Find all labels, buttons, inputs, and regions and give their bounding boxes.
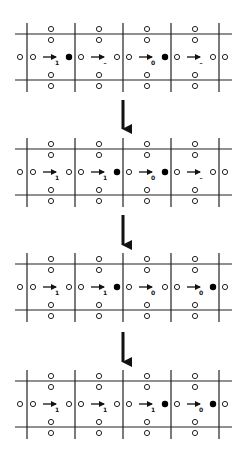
open-site-icon xyxy=(222,169,227,174)
open-site-icon xyxy=(96,141,101,146)
open-site-icon xyxy=(192,267,197,272)
open-site-icon xyxy=(48,198,53,203)
open-site-icon xyxy=(96,187,101,192)
open-site-icon xyxy=(114,401,119,406)
cell-label: 1 xyxy=(151,406,155,413)
open-site-icon xyxy=(48,152,53,157)
open-site-icon xyxy=(48,26,53,31)
open-site-icon xyxy=(192,141,197,146)
filled-site-icon xyxy=(162,401,168,407)
cell-label: 1 xyxy=(103,174,107,181)
open-site-icon xyxy=(126,401,131,406)
open-site-icon xyxy=(192,430,197,435)
open-site-icon xyxy=(126,54,131,59)
cell-label: 0 xyxy=(151,174,155,181)
open-site-icon xyxy=(96,313,101,318)
open-site-icon xyxy=(96,83,101,88)
open-site-icon xyxy=(66,169,71,174)
cell-label: 1 xyxy=(55,174,59,181)
open-site-icon xyxy=(48,302,53,307)
open-site-icon xyxy=(192,313,197,318)
open-site-icon xyxy=(144,26,149,31)
open-site-icon xyxy=(144,152,149,157)
open-site-icon xyxy=(144,302,149,307)
open-site-icon xyxy=(144,83,149,88)
open-site-icon xyxy=(144,267,149,272)
filled-site-icon xyxy=(162,54,168,60)
open-site-icon xyxy=(144,187,149,192)
open-site-icon xyxy=(192,384,197,389)
open-site-icon xyxy=(30,169,35,174)
open-site-icon xyxy=(78,54,83,59)
open-site-icon xyxy=(48,384,53,389)
open-site-icon xyxy=(78,401,83,406)
open-site-icon xyxy=(192,72,197,77)
cell-label: 1 xyxy=(55,59,59,66)
cell-label: 1 xyxy=(55,406,59,413)
open-site-icon xyxy=(48,187,53,192)
open-site-icon xyxy=(192,419,197,424)
open-site-icon xyxy=(96,198,101,203)
open-site-icon xyxy=(48,430,53,435)
open-site-icon xyxy=(96,256,101,261)
open-site-icon xyxy=(48,256,53,261)
open-site-icon xyxy=(96,419,101,424)
filled-site-icon xyxy=(210,284,216,290)
open-site-icon xyxy=(48,373,53,378)
open-site-icon xyxy=(144,373,149,378)
open-site-icon xyxy=(144,419,149,424)
open-site-icon xyxy=(96,72,101,77)
open-site-icon xyxy=(48,83,53,88)
filled-site-icon xyxy=(210,401,216,407)
open-site-icon xyxy=(30,284,35,289)
open-site-icon xyxy=(126,169,131,174)
open-site-icon xyxy=(17,54,22,59)
open-site-icon xyxy=(96,267,101,272)
open-site-icon xyxy=(48,72,53,77)
cell-label: 0 xyxy=(199,289,203,296)
open-site-icon xyxy=(17,401,22,406)
open-site-icon xyxy=(144,141,149,146)
open-site-icon xyxy=(48,267,53,272)
filled-site-icon xyxy=(66,54,72,60)
open-site-icon xyxy=(192,26,197,31)
open-site-icon xyxy=(114,54,119,59)
open-site-icon xyxy=(78,169,83,174)
cell-label: 1 xyxy=(103,289,107,296)
open-site-icon xyxy=(17,169,22,174)
filled-site-icon xyxy=(162,169,168,175)
lattice-state-diagram: 1–0–110–11001110 xyxy=(0,0,244,459)
open-site-icon xyxy=(192,198,197,203)
open-site-icon xyxy=(174,54,179,59)
cell-label: – xyxy=(200,174,203,181)
open-site-icon xyxy=(174,401,179,406)
open-site-icon xyxy=(162,284,167,289)
open-site-icon xyxy=(192,373,197,378)
cell-label: 1 xyxy=(103,406,107,413)
open-site-icon xyxy=(96,373,101,378)
open-site-icon xyxy=(96,384,101,389)
open-site-icon xyxy=(17,284,22,289)
panel-3: 1100 xyxy=(15,253,232,322)
open-site-icon xyxy=(144,430,149,435)
cell-label: – xyxy=(200,59,203,66)
open-site-icon xyxy=(222,401,227,406)
open-site-icon xyxy=(144,384,149,389)
panel-4: 1110 xyxy=(15,370,232,439)
open-site-icon xyxy=(174,169,179,174)
cell-label: 0 xyxy=(151,59,155,66)
open-site-icon xyxy=(30,54,35,59)
open-site-icon xyxy=(192,37,197,42)
open-site-icon xyxy=(66,284,71,289)
open-site-icon xyxy=(144,198,149,203)
open-site-icon xyxy=(66,401,71,406)
open-site-icon xyxy=(144,256,149,261)
cell-label: 1 xyxy=(55,289,59,296)
open-site-icon xyxy=(48,141,53,146)
open-site-icon xyxy=(96,152,101,157)
filled-site-icon xyxy=(114,169,120,175)
open-site-icon xyxy=(222,54,227,59)
open-site-icon xyxy=(48,37,53,42)
open-site-icon xyxy=(192,187,197,192)
open-site-icon xyxy=(144,72,149,77)
